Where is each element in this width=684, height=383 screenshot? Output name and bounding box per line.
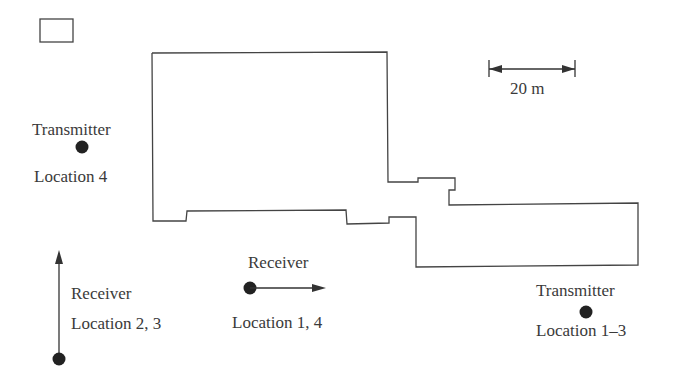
transmitter-4-location: Location 4 <box>34 168 107 185</box>
transmitter-1-3-marker <box>580 306 593 319</box>
receiver-2-3-arrow <box>53 250 66 366</box>
transmitter-4-title: Transmitter <box>32 121 111 138</box>
scale-bar <box>489 60 575 77</box>
receiver-1-4-arrow <box>244 282 327 295</box>
receiver-1-4-location: Location 1, 4 <box>232 314 322 331</box>
transmitter-1-3-location: Location 1–3 <box>536 322 626 339</box>
receiver-2-3-title: Receiver <box>71 285 131 302</box>
building-outline <box>152 52 638 267</box>
transmitter-1-3-title: Transmitter <box>536 282 615 299</box>
receiver-2-3-location: Location 2, 3 <box>71 315 161 332</box>
scale-bar-label: 20 m <box>510 80 544 97</box>
transmitter-4-marker <box>76 141 89 154</box>
legend-box <box>40 19 73 42</box>
receiver-1-4-title: Receiver <box>248 254 308 271</box>
